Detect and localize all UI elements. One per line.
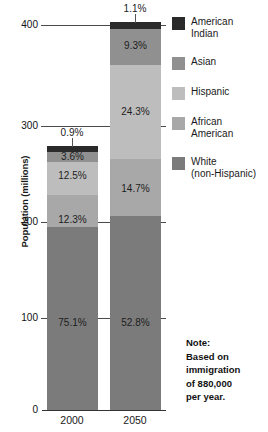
legend-swatch-african-american-icon — [172, 117, 185, 130]
legend-label-hispanic: Hispanic — [191, 86, 229, 98]
segment-2050-hispanic[interactable]: 24.3% — [110, 65, 161, 159]
chart-note: Note: Based on immigration of 880,000 pe… — [186, 336, 268, 404]
y-tick-mark-400 — [41, 25, 51, 26]
x-axis-line — [42, 410, 166, 411]
segment-label-2050-asian: 9.3% — [110, 40, 161, 51]
callout-line-2000 — [72, 138, 73, 147]
legend-swatch-asian-icon — [172, 57, 185, 70]
legend-item-white[interactable]: White (non-Hispanic) — [172, 156, 256, 179]
legend-label-african-american: African American — [191, 116, 233, 139]
bar-2050[interactable]: 9.3% 24.3% 14.7% 52.8% — [110, 22, 161, 410]
legend-swatch-american-indian-icon — [172, 17, 185, 30]
y-tick-label-400: 400 — [8, 20, 38, 30]
y-axis-title: Population (millions) — [19, 132, 30, 272]
x-tick-label-2000: 2000 — [42, 414, 102, 426]
segment-2050-asian[interactable]: 9.3% — [110, 29, 161, 65]
segment-2000-asian[interactable]: 3.6% — [47, 152, 98, 162]
segment-2000-african-american[interactable]: 12.3% — [47, 195, 98, 227]
segment-label-2000-african-american: 12.3% — [47, 214, 98, 225]
segment-label-2050-hispanic: 24.3% — [110, 106, 161, 117]
legend-item-hispanic[interactable]: Hispanic — [172, 86, 229, 100]
legend-label-white: White (non-Hispanic) — [191, 156, 256, 179]
bar-2000[interactable]: 3.6% 12.5% 12.3% 75.1% — [47, 146, 98, 410]
segment-label-2050-white: 52.8% — [110, 317, 161, 328]
segment-label-2000-white: 75.1% — [47, 317, 98, 328]
x-tick-label-2050: 2050 — [105, 414, 165, 426]
y-tick-label-200: 200 — [8, 217, 38, 227]
legend-item-asian[interactable]: Asian — [172, 56, 216, 70]
legend-swatch-hispanic-icon — [172, 87, 185, 100]
callout-label-2000-american-indian: 0.9% — [47, 127, 97, 138]
segment-2050-african-american[interactable]: 14.7% — [110, 159, 161, 216]
legend-label-asian: Asian — [191, 56, 216, 68]
y-tick-label-0: 0 — [8, 405, 38, 415]
callout-label-2050-american-indian: 1.1% — [110, 3, 160, 14]
segment-label-2000-hispanic: 12.5% — [47, 170, 98, 181]
segment-2050-white[interactable]: 52.8% — [110, 216, 161, 410]
y-tick-label-300: 300 — [8, 121, 38, 131]
segment-2000-white[interactable]: 75.1% — [47, 227, 98, 410]
legend-item-american-indian[interactable]: American Indian — [172, 16, 233, 39]
callout-line-2050 — [135, 14, 136, 23]
stacked-bar-chart: Population (millions) 400 300 200 100 0 … — [0, 0, 268, 432]
y-tick-label-100: 100 — [8, 313, 38, 323]
segment-2000-hispanic[interactable]: 12.5% — [47, 162, 98, 195]
segment-label-2000-asian: 3.6% — [47, 151, 98, 162]
segment-label-2050-african-american: 14.7% — [110, 183, 161, 194]
legend-swatch-white-icon — [172, 157, 185, 170]
segment-2050-american-indian[interactable] — [110, 22, 161, 29]
legend-item-african-american[interactable]: African American — [172, 116, 233, 139]
legend-label-american-indian: American Indian — [191, 16, 233, 39]
